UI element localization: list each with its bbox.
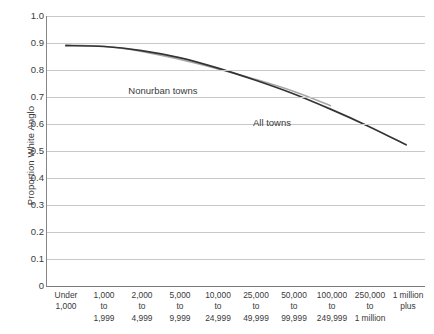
gridline (47, 232, 425, 233)
y-tick-label: 0.7 (14, 92, 44, 102)
x-axis-tick-labels: Under1,000 1,000to1,9992,000to4,9995,000… (47, 290, 427, 330)
gridline (47, 70, 425, 71)
gridline (47, 97, 425, 98)
gridline (47, 205, 425, 206)
x-tick-label: 1 millionplus (389, 290, 427, 330)
y-tick-label: 0.8 (14, 65, 44, 75)
y-tick-label: 0.5 (14, 146, 44, 156)
y-axis-tick-labels: 1.00.90.80.70.60.50.40.30.20.10 (14, 0, 44, 334)
x-tick-label: 1,000to1,999 (85, 290, 123, 330)
y-tick-label: 0.9 (14, 38, 44, 48)
y-tick-label: 0.2 (14, 227, 44, 237)
y-tick-label: 0 (14, 281, 44, 291)
x-tick-label: Under1,000 (47, 290, 85, 330)
series-annotation: All towns (253, 117, 291, 128)
x-tick-label: 2,000to4,999 (123, 290, 161, 330)
series-annotation: Nonurban towns (128, 85, 197, 96)
gridline (47, 124, 425, 125)
gridline (47, 259, 425, 260)
y-tick-label: 0.3 (14, 200, 44, 210)
gridline (47, 151, 425, 152)
plot-area: Nonurban townsAll towns (47, 16, 425, 286)
y-tick-label: 0.6 (14, 119, 44, 129)
y-tick-label: 1.0 (14, 11, 44, 21)
gridline (47, 43, 425, 44)
x-tick-label: 10,000to24,999 (199, 290, 237, 330)
y-tick-label: 0.4 (14, 173, 44, 183)
chart-figure: Proportion White Anglo 1.00.90.80.70.60.… (0, 0, 434, 334)
series-line (66, 46, 406, 145)
x-tick-label: 25,000to49,999 (237, 290, 275, 330)
y-tick-label: 0.1 (14, 254, 44, 264)
x-tick-label: 250,000to1 million (351, 290, 389, 330)
x-tick-label: 100,000to249,999 (313, 290, 351, 330)
gridline (47, 16, 425, 17)
x-axis-line (46, 286, 425, 287)
x-tick-label: 5,000to9,999 (161, 290, 199, 330)
gridline (47, 178, 425, 179)
x-tick-label: 50,000to99,999 (275, 290, 313, 330)
